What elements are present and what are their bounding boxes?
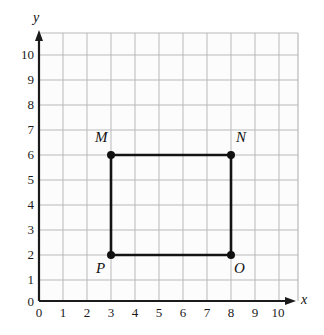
y-tick-label-1: 1 [14,273,34,287]
x-tick-label-7: 7 [199,306,215,320]
plot-background [39,33,298,301]
y-tick-label-5: 5 [14,173,34,187]
y-tick-label-10: 10 [8,48,34,62]
x-tick-label-1: 1 [55,306,71,320]
y-tick-label-3: 3 [14,223,34,237]
x-tick-label-2: 2 [79,306,95,320]
x-tick-label-6: 6 [175,306,191,320]
y-tick-label-0: 0 [14,295,34,309]
vertex-label-m: M [95,130,108,145]
x-tick-label-4: 4 [127,306,143,320]
y-tick-label-8: 8 [14,98,34,112]
vertex-point-p [107,251,115,259]
y-tick-label-4: 4 [14,198,34,212]
vertex-label-o: O [234,261,245,276]
x-axis-label: x [301,293,307,307]
y-tick-label-9: 9 [14,73,34,87]
x-tick-label-8: 8 [223,306,239,320]
x-tick-label-9: 9 [247,306,263,320]
vertex-point-n [227,151,235,159]
y-axis-label: y [33,11,39,25]
y-tick-label-7: 7 [14,123,34,137]
x-tick-label-10: 10 [267,306,289,320]
x-tick-label-3: 3 [103,306,119,320]
y-tick-label-2: 2 [14,248,34,262]
coordinate-plane-figure: 0 1 2 3 4 5 6 7 8 9 10 0 1 2 3 4 5 6 7 8… [0,0,324,335]
vertex-point-o [227,251,235,259]
x-tick-label-5: 5 [151,306,167,320]
coordinate-grid-svg [0,0,324,335]
vertex-label-n: N [236,130,246,145]
vertex-label-p: P [96,261,105,276]
y-tick-label-6: 6 [14,148,34,162]
vertex-point-m [107,151,115,159]
